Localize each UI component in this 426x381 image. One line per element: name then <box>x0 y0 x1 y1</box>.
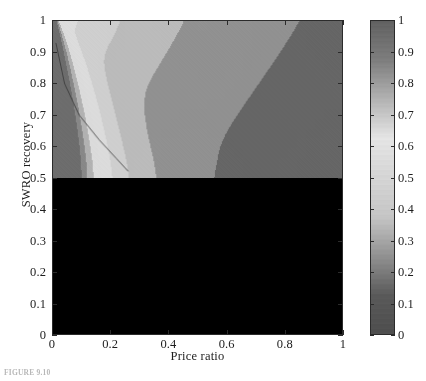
colorbar-tick-mark <box>370 178 374 179</box>
colorbar-tick-label: 1 <box>398 14 426 26</box>
y-axis-tick-mark <box>52 83 57 84</box>
y-axis-tick-mark <box>52 241 57 242</box>
colorbar-tick-mark <box>391 115 395 116</box>
x-axis-tick-mark <box>168 330 169 335</box>
colorbar-tick-mark <box>370 304 374 305</box>
y-axis-tick-mark <box>52 272 57 273</box>
colorbar-tick-label: 0.8 <box>398 77 426 89</box>
colorbar-tick-mark <box>391 304 395 305</box>
figure-caption: FIGURE 9.10 <box>4 368 50 377</box>
x-axis-tick-mark <box>110 330 111 335</box>
y-axis-title: SWRO recovery <box>19 90 34 240</box>
figure-container: 00.10.20.30.40.50.60.70.80.9100.20.40.60… <box>0 0 426 381</box>
y-axis-tick-mark <box>338 272 343 273</box>
x-axis-tick-mark <box>52 330 53 335</box>
colorbar-tick-mark <box>391 241 395 242</box>
x-axis-tick-mark <box>110 20 111 25</box>
y-axis-tick-mark <box>52 178 57 179</box>
y-axis-tick-mark <box>52 209 57 210</box>
colorbar-tick-label: 0.2 <box>398 266 426 278</box>
y-axis-tick-mark <box>52 52 57 53</box>
colorbar-tick-mark <box>370 83 374 84</box>
y-axis-tick-mark <box>338 146 343 147</box>
colorbar-tick-mark <box>391 272 395 273</box>
contour-plot-canvas <box>53 21 342 334</box>
colorbar-tick-mark <box>370 335 374 336</box>
y-axis-tick-mark <box>338 304 343 305</box>
x-axis-title: Price ratio <box>52 349 343 364</box>
colorbar-tick-mark <box>391 83 395 84</box>
y-axis-tick-label: 0.9 <box>0 46 46 58</box>
y-axis-tick-mark <box>338 178 343 179</box>
y-axis-tick-mark <box>52 115 57 116</box>
x-axis-tick-mark <box>227 20 228 25</box>
x-axis-tick-mark <box>168 20 169 25</box>
colorbar-tick-mark <box>391 146 395 147</box>
colorbar-tick-label: 0.6 <box>398 140 426 152</box>
colorbar-tick-label: 0.1 <box>398 298 426 310</box>
y-axis-tick-label: 0.1 <box>0 298 46 310</box>
colorbar-tick-mark <box>370 272 374 273</box>
y-axis-tick-mark <box>338 52 343 53</box>
colorbar-tick-mark <box>391 209 395 210</box>
colorbar-tick-label: 0.5 <box>398 172 426 184</box>
colorbar-tick-mark <box>391 20 395 21</box>
colorbar-tick-mark <box>391 52 395 53</box>
colorbar-tick-mark <box>370 209 374 210</box>
y-axis-tick-mark <box>52 304 57 305</box>
colorbar-tick-label: 0.4 <box>398 203 426 215</box>
colorbar-tick-mark <box>391 335 395 336</box>
y-axis-tick-mark <box>338 209 343 210</box>
x-axis-tick-mark <box>285 20 286 25</box>
colorbar-tick-label: 0.9 <box>398 46 426 58</box>
y-axis-tick-label: 0.2 <box>0 266 46 278</box>
y-axis-tick-mark <box>52 146 57 147</box>
colorbar-tick-mark <box>370 115 374 116</box>
y-axis-tick-mark <box>338 83 343 84</box>
colorbar-tick-mark <box>391 178 395 179</box>
x-axis-tick-mark <box>285 330 286 335</box>
y-axis-tick-label: 0.8 <box>0 77 46 89</box>
colorbar-tick-label: 0 <box>398 329 426 341</box>
contour-plot-area <box>52 20 343 335</box>
colorbar-tick-mark <box>370 241 374 242</box>
x-axis-tick-mark <box>343 330 344 335</box>
y-axis-tick-mark <box>338 335 343 336</box>
y-axis-tick-mark <box>52 335 57 336</box>
colorbar-tick-mark <box>370 20 374 21</box>
colorbar-tick-mark <box>370 146 374 147</box>
y-axis-tick-mark <box>338 241 343 242</box>
y-axis-tick-mark <box>338 115 343 116</box>
y-axis-tick-label: 1 <box>0 14 46 26</box>
x-axis-tick-mark <box>343 20 344 25</box>
colorbar-tick-label: 0.3 <box>398 235 426 247</box>
colorbar-tick-label: 0.7 <box>398 109 426 121</box>
x-axis-tick-mark <box>227 330 228 335</box>
x-axis-tick-mark <box>52 20 53 25</box>
colorbar-tick-mark <box>370 52 374 53</box>
